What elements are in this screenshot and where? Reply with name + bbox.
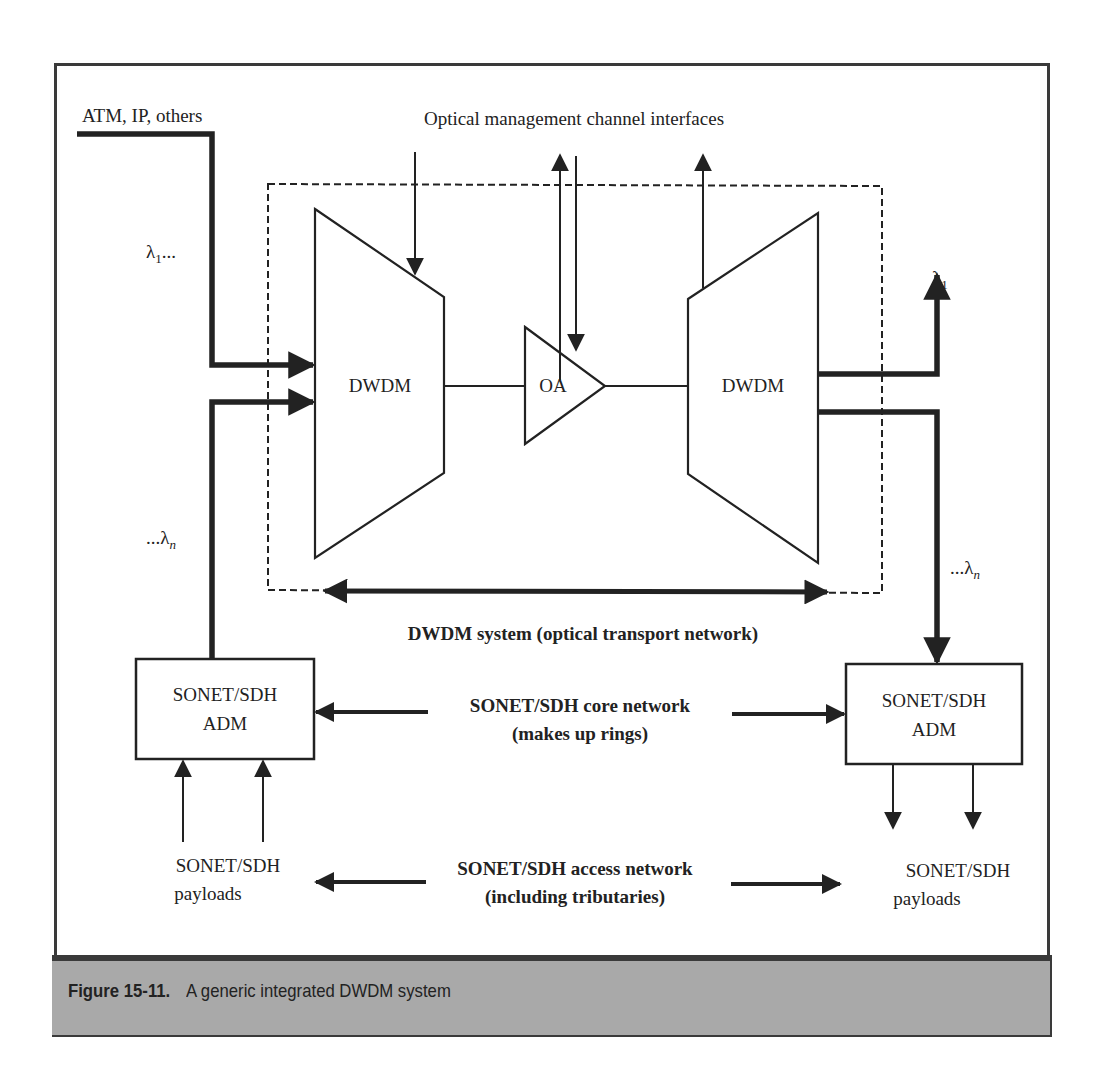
adm-right	[846, 664, 1022, 764]
adm-left	[136, 659, 314, 759]
figure-caption-text: A generic integrated DWDM system	[186, 980, 451, 1002]
access-network-line1: SONET/SDH access network	[457, 858, 693, 879]
dwdm-right-label: DWDM	[722, 375, 784, 396]
adm-right-line2: ADM	[912, 719, 956, 740]
access-network-line2: (including tributaries)	[485, 886, 665, 908]
dwdm-system-label: DWDM system (optical transport network)	[408, 623, 758, 645]
output-lambdan-path	[818, 412, 937, 662]
core-network-line2: (makes up rings)	[512, 723, 648, 745]
dwdm-left-label: DWDM	[349, 375, 411, 396]
adm-to-dwdm-path	[212, 402, 313, 658]
adm-left-line2: ADM	[203, 713, 247, 734]
input-traffic-path	[77, 134, 313, 365]
management-channels-label: Optical management channel interfaces	[424, 108, 724, 129]
oa-label: OA	[539, 375, 567, 396]
payloads-left-line2: payloads	[174, 883, 242, 904]
output-lambda1-path	[818, 275, 937, 374]
lambda-n-in-label: ...λn	[146, 527, 176, 552]
dwdm-system-span-arrow	[325, 591, 827, 592]
payloads-right-line2: payloads	[893, 888, 961, 909]
figure-caption: Figure 15-11. A generic integrated DWDM …	[52, 955, 1052, 1037]
dwdm-diagram: ATM, IP, others Optical management chann…	[0, 0, 1094, 1077]
input-traffic-label: ATM, IP, others	[82, 105, 202, 126]
core-network-line1: SONET/SDH core network	[470, 695, 691, 716]
adm-right-line1: SONET/SDH	[882, 690, 987, 711]
figure: ATM, IP, others Optical management chann…	[0, 0, 1094, 1077]
adm-left-line1: SONET/SDH	[173, 684, 278, 705]
payloads-right-line1: SONET/SDH	[906, 860, 1011, 881]
payloads-left-line1: SONET/SDH	[176, 855, 281, 876]
lambda-n-out-label: ...λn	[950, 557, 980, 582]
figure-number: Figure 15-11.	[68, 980, 170, 1002]
lambda-1-in-label: λ1...	[146, 241, 176, 266]
